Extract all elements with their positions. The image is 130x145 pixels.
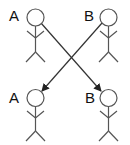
arrow-b-to-a (42, 23, 102, 91)
figure-label: B (84, 7, 94, 24)
arrow-a-to-b (41, 23, 101, 91)
stick-figure-top-right: B (84, 7, 118, 62)
figure-label: A (9, 89, 19, 106)
stick-figure-bottom-left: A (9, 89, 45, 141)
stick-figure-top-left: A (9, 7, 45, 62)
figure-label: B (85, 89, 95, 106)
head-icon (100, 9, 117, 26)
figure-label: A (9, 7, 19, 24)
head-icon (27, 90, 44, 107)
head-icon (27, 9, 44, 26)
diagram-canvas: A B A B (0, 0, 130, 145)
stick-figure-bottom-right: B (85, 89, 118, 141)
head-icon (100, 90, 117, 107)
